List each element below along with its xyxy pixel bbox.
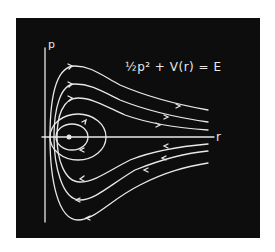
trajectory-1-upper xyxy=(50,66,208,137)
arrow-icon xyxy=(162,156,166,160)
arrow-icon xyxy=(80,176,84,181)
fixed-point-dot xyxy=(67,135,72,140)
arrow-icon xyxy=(164,115,168,119)
phase-portrait xyxy=(0,0,275,252)
arrow-icon xyxy=(164,144,168,148)
p-axis-label: p xyxy=(48,38,55,51)
r-axis-label: r xyxy=(216,130,221,144)
trajectory-2-upper xyxy=(54,84,208,137)
arrow-icon xyxy=(82,120,86,124)
arrow-icon xyxy=(144,168,148,172)
energy-equation: ½p² + V(r) = E xyxy=(125,60,222,74)
trajectory-3-upper xyxy=(57,98,208,137)
